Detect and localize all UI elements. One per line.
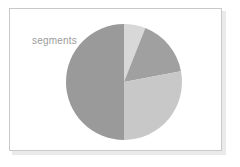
- chart-title: segments: [32, 35, 77, 47]
- chart-frame: segments: [9, 8, 222, 151]
- figure-root: segments: [0, 0, 240, 167]
